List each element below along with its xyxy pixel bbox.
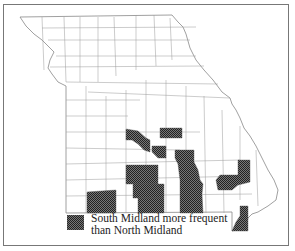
legend-swatch-icon [67, 215, 84, 230]
legend-label: South Midland more frequent than North M… [91, 212, 227, 236]
map-figure: South Midland more frequent than North M… [0, 0, 295, 251]
legend: South Midland more frequent than North M… [67, 212, 227, 236]
legend-line-1: South Midland more frequent [91, 212, 227, 224]
legend-line-2: than North Midland [91, 224, 227, 236]
